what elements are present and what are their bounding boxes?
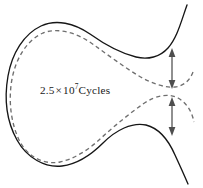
lower-gap-arrow-head-top — [169, 97, 176, 106]
upper-gap-arrow — [169, 48, 176, 89]
upper-gap-arrow-head-top — [169, 48, 176, 57]
fatigue-envelope-figure: 2.5×107Cycles — [0, 0, 203, 188]
lower-gap-arrow — [169, 97, 176, 136]
cycles-unit: Cycles — [79, 84, 111, 96]
cycles-base: 10 — [63, 84, 75, 96]
lower-gap-arrow-head-bottom — [169, 127, 176, 136]
cycles-annotation: 2.5×107Cycles — [40, 85, 110, 96]
cycles-coefficient: 2.5 — [40, 84, 55, 96]
multiplication-sign-icon: × — [55, 84, 64, 96]
